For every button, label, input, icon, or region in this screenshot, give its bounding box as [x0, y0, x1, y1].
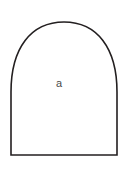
shape-label-a: a	[52, 77, 66, 89]
figure-canvas: a	[0, 0, 128, 171]
